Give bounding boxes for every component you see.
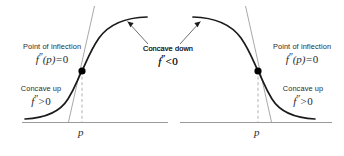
inflection-point-dot [78, 67, 85, 74]
formula-value: 0 [307, 95, 313, 107]
inflection-point-dot [254, 67, 261, 74]
concave-up-annotation: Concave up f″>0 [10, 84, 72, 107]
x-axis-tick-label-p: p [78, 126, 84, 138]
concave-down-formula: f″<0 [132, 53, 204, 67]
x-axis-tick-label-p: p [254, 126, 260, 138]
formula-value: 0 [172, 55, 178, 67]
formula-relation: = [305, 53, 312, 65]
formula-value: 0 [313, 53, 319, 65]
concave-up-title: Concave up [10, 84, 72, 93]
formula-argument: (p) [43, 53, 56, 65]
inflection-annotation-title: Point of inflection [260, 42, 344, 51]
formula-value: 0 [45, 95, 51, 107]
inflection-annotation: Point of inflection f″(p)=0 [260, 42, 344, 65]
formula-value: 0 [63, 53, 69, 65]
formula-relation: = [55, 53, 62, 65]
concave-down-annotation: Concave down f″<0 [132, 44, 204, 67]
concave-up-annotation: Concave up f″>0 [272, 84, 334, 107]
concave-down-arrowhead [128, 22, 134, 28]
concave-up-title: Concave up [272, 84, 334, 93]
concave-down-arrowhead [194, 22, 200, 28]
inflection-annotation: Point of inflection f″(p)=0 [8, 42, 96, 65]
formula-argument: (p) [293, 53, 306, 65]
concave-up-formula: f″>0 [10, 93, 72, 107]
concave-down-title: Concave down [132, 44, 204, 53]
panel-left-graphics [0, 0, 172, 156]
inflection-annotation-formula: f″(p)=0 [8, 51, 96, 65]
inflection-annotation-title: Point of inflection [8, 42, 96, 51]
concave-up-formula: f″>0 [272, 93, 334, 107]
inflection-annotation-formula: f″(p)=0 [260, 51, 344, 65]
inflection-point-figure: Point of inflection f″(p)=0 Concave up f… [0, 0, 344, 156]
panel-increasing-curve: Point of inflection f″(p)=0 Concave up f… [0, 0, 172, 156]
panel-decreasing-curve: Point of inflection f″(p)=0 Concave up f… [172, 0, 344, 156]
